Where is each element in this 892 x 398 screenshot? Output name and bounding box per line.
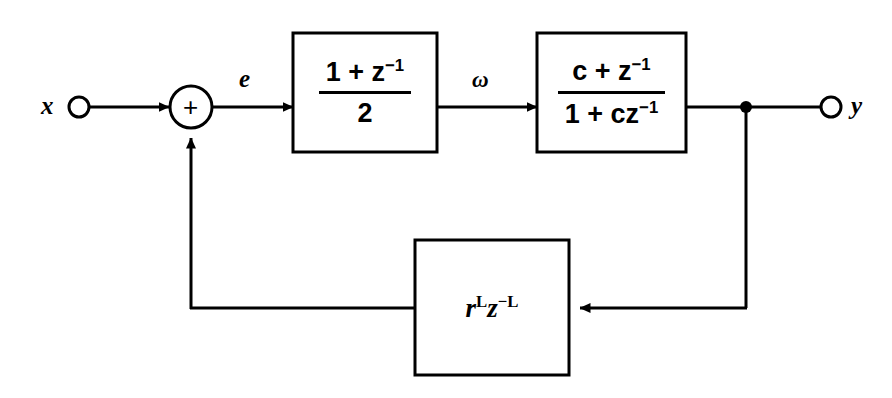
block-diagram: + x y e ω 1 + z−1 2 c + z−1 1 + cz−1 (0, 0, 892, 398)
delay-block-label: rLz−L (415, 240, 569, 375)
input-node-circle (69, 97, 89, 117)
allpass-block-label: c + z−1 1 + cz−1 (537, 33, 686, 152)
allpass-numerator-text: c + z (572, 56, 631, 86)
output-label-y: y (851, 93, 862, 118)
output-node-circle (821, 97, 841, 117)
summer-plus-symbol: + (183, 94, 198, 120)
signal-label-e: e (239, 66, 250, 91)
delay-base-r: r (466, 293, 477, 323)
input-label-x: x (41, 93, 54, 118)
allpass-numerator-exponent: −1 (632, 55, 651, 74)
lowpass-numerator-text: 1 + z (326, 57, 385, 87)
allpass-denominator-exponent: −1 (639, 98, 658, 117)
allpass-denominator-text: 1 + cz (565, 99, 639, 129)
lowpass-denominator-text: 2 (350, 94, 379, 129)
signal-label-omega: ω (472, 68, 489, 91)
lowpass-numerator-exponent: −1 (385, 56, 404, 75)
delay-base-z: z (487, 293, 498, 323)
lowpass-block-label: 1 + z−1 2 (293, 33, 437, 152)
delay-exponent-L: L (476, 292, 487, 311)
delay-exponent-negative-L: −L (498, 292, 519, 311)
